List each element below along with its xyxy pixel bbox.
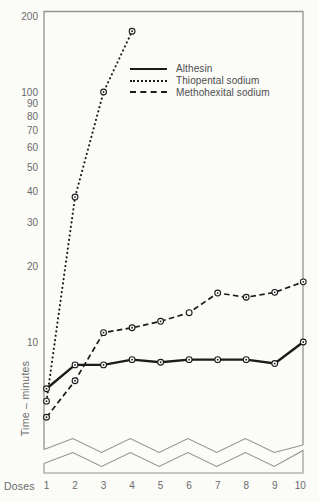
y-tick-label: 90 — [2, 98, 38, 109]
solid-line-sample-icon — [130, 68, 167, 70]
y-tick-label: 100 — [2, 87, 38, 98]
legend: Althesin Thiopental sodium Methohexital … — [130, 63, 270, 98]
y-tick-label: 80 — [2, 111, 38, 122]
x-axis-title: Doses — [4, 480, 35, 492]
x-tick-label: 5 — [150, 480, 172, 491]
x-tick-label: 7 — [207, 480, 229, 491]
x-tick-label: 3 — [93, 480, 115, 491]
x-tick-label: 2 — [64, 480, 86, 491]
legend-label: Thiopental sodium — [176, 75, 259, 86]
y-tick-label: 70 — [2, 125, 38, 136]
legend-label: Althesin — [176, 63, 212, 74]
x-tick-label: 6 — [178, 480, 200, 491]
chart-figure: 200100908070605040302010 12345678910 Tim… — [0, 0, 319, 502]
y-axis-title: Time – minutes — [19, 339, 32, 459]
x-tick-label: 1 — [36, 480, 58, 491]
dashed-line-sample-icon — [130, 91, 167, 93]
x-tick-label: 10 — [289, 480, 311, 491]
legend-label: Methohexital sodium — [176, 87, 270, 98]
x-tick-label: 9 — [264, 480, 286, 491]
y-tick-label: 30 — [2, 217, 38, 228]
dotted-line-sample-icon — [130, 80, 167, 82]
y-tick-label: 200 — [2, 11, 38, 22]
x-tick-label: 4 — [121, 480, 143, 491]
y-tick-label: 60 — [2, 142, 38, 153]
legend-item-thiopental: Thiopental sodium — [130, 75, 270, 87]
y-tick-label: 50 — [2, 162, 38, 173]
legend-item-althesin: Althesin — [130, 63, 270, 75]
y-tick-label: 20 — [2, 261, 38, 272]
legend-item-methohexital: Methohexital sodium — [130, 86, 270, 98]
x-tick-label: 8 — [235, 480, 257, 491]
y-tick-label: 40 — [2, 186, 38, 197]
